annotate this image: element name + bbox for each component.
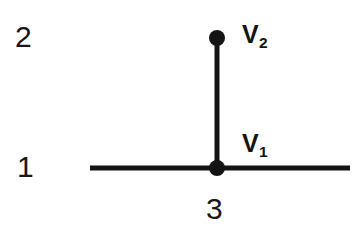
node-label-v1-base: V (242, 129, 259, 157)
node-label-v2-base: V (242, 20, 259, 48)
axis-label-row-top: 2 (15, 22, 32, 52)
axis-label-row-bottom: 1 (17, 152, 34, 182)
node-v2-dot (209, 30, 225, 46)
node-label-v1: V1 (242, 131, 267, 156)
node-label-v2-subscript: 2 (259, 34, 268, 51)
node-v1-junction-dot (209, 160, 225, 176)
diagram-canvas: 2 1 3 V2 V1 (0, 0, 361, 235)
node-label-v2: V2 (242, 22, 267, 47)
diagram-graphics (0, 0, 361, 235)
node-label-v1-subscript: 1 (259, 143, 268, 160)
axis-label-column: 3 (206, 194, 223, 224)
